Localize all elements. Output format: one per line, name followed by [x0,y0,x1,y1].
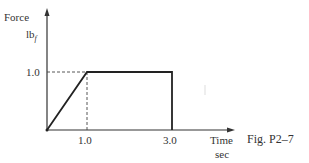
x-tick-label-1: 1.0 [78,134,92,146]
y-tick-label: 1.0 [26,66,40,78]
y-axis-unit-base: lb [26,28,35,40]
y-axis-unit: lbf [26,28,37,45]
y-axis-arrow-icon [45,8,50,16]
x-tick-label-3: 3.0 [163,134,177,146]
y-axis-unit-sub: f [35,34,37,43]
origin-dot [46,129,49,132]
x-axis-arrow-icon [227,128,235,133]
force-curve [47,72,172,130]
figure-caption: Fig. P2–7 [247,133,294,145]
x-axis-unit: sec [215,148,229,160]
y-axis-label: Force [4,11,29,23]
x-axis-label: Time [210,134,233,146]
